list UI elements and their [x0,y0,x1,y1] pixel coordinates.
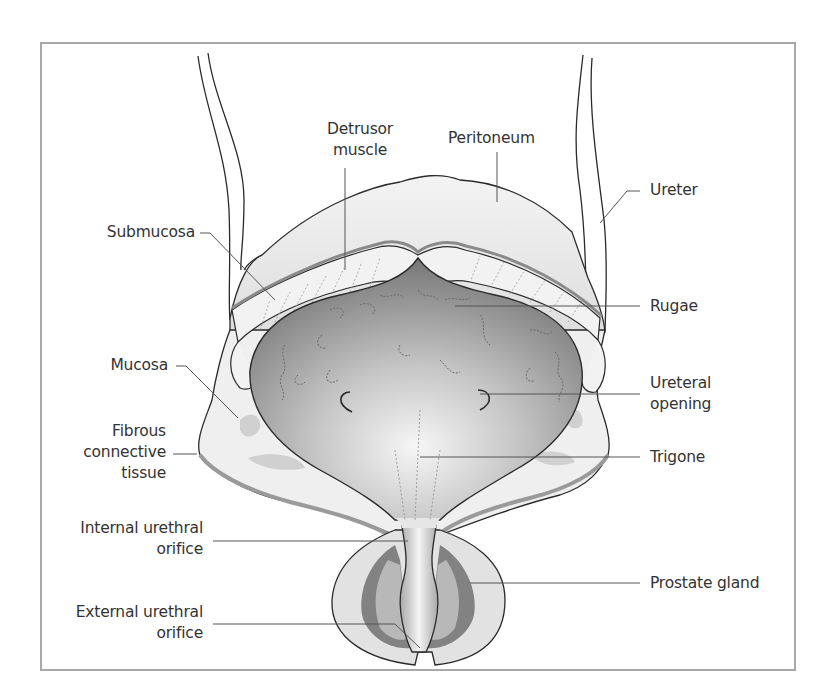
label-line: Submucosa [40,222,195,243]
label-line: Detrusor [300,119,420,140]
label-line: Internal urethral [40,518,203,539]
label-detrusor-muscle: Detrusor muscle [300,119,420,161]
label-line: Rugae [650,296,698,317]
label-line: External urethral [40,602,203,623]
label-line: muscle [300,140,420,161]
urethra [400,525,438,652]
label-ureter: Ureter [650,180,698,201]
label-line: Prostate gland [650,573,759,594]
label-peritoneum: Peritoneum [448,128,535,149]
label-line: Trigone [650,447,705,468]
label-rugae: Rugae [650,296,698,317]
label-internal-urethral-orifice: Internal urethral orifice [40,518,203,560]
label-line: Ureteral [650,373,711,394]
label-line: tissue [40,463,166,484]
label-fibrous-connective-tissue: Fibrous connective tissue [40,421,166,484]
ureter-left [198,53,244,320]
label-external-urethral-orifice: External urethral orifice [40,602,203,644]
label-submucosa: Submucosa [40,222,195,243]
label-line: opening [650,394,711,415]
label-line: Fibrous [40,421,166,442]
label-trigone: Trigone [650,447,705,468]
label-line: Mucosa [40,355,168,376]
label-ureteral-opening: Ureteral opening [650,373,711,415]
label-line: Peritoneum [448,128,535,149]
label-line: orifice [40,623,203,644]
label-line: connective [40,442,166,463]
label-prostate-gland: Prostate gland [650,573,759,594]
label-mucosa: Mucosa [40,355,168,376]
label-line: orifice [40,539,203,560]
label-line: Ureter [650,180,698,201]
